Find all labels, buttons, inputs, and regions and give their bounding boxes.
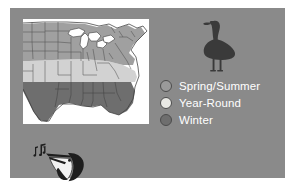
bird-call-audio-icon[interactable] — [30, 142, 88, 184]
legend-item-year-round[interactable]: Year-Round — [160, 95, 290, 111]
legend-swatch-spring-summer — [160, 80, 172, 92]
legend-label-spring-summer: Spring/Summer — [179, 80, 260, 93]
legend-item-spring-summer[interactable]: Spring/Summer — [160, 78, 290, 94]
legend-swatch-year-round — [160, 97, 172, 109]
goose-silhouette-svg — [192, 18, 240, 74]
legend-label-year-round: Year-Round — [179, 97, 241, 110]
goose-silhouette — [192, 18, 240, 74]
legend-item-winter[interactable]: Winter — [160, 112, 290, 128]
seasonal-range-legend: Spring/Summer Year-Round Winter — [160, 78, 290, 129]
legend-swatch-winter — [160, 114, 172, 126]
content-panel: Spring/Summer Year-Round Winter — [10, 8, 285, 178]
legend-label-winter: Winter — [179, 114, 213, 127]
music-note-icon — [33, 143, 45, 156]
range-map[interactable] — [23, 19, 149, 124]
bird-call-audio-svg — [30, 142, 88, 184]
beak-upper — [46, 154, 72, 158]
eye-icon — [68, 159, 71, 162]
screenshot-root: Spring/Summer Year-Round Winter — [0, 0, 294, 185]
range-map-svg — [23, 19, 149, 124]
